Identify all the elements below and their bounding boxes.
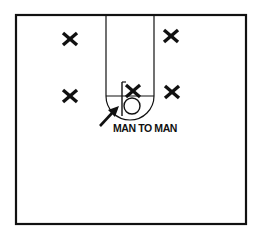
player-x-top-right bbox=[164, 30, 178, 42]
man-to-man-diagram: MAN TO MAN bbox=[0, 0, 260, 233]
basket-circle bbox=[124, 98, 140, 114]
player-x-post-center bbox=[126, 85, 140, 97]
player-x-wing-left bbox=[63, 90, 77, 102]
free-throw-semicircle bbox=[106, 96, 154, 120]
player-x-top-left bbox=[63, 33, 77, 45]
diagram-label: MAN TO MAN bbox=[106, 122, 184, 134]
player-x-wing-right bbox=[165, 86, 179, 98]
court-svg bbox=[0, 0, 260, 233]
